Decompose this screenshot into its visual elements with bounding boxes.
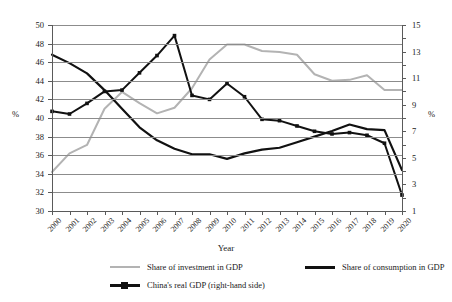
y-axis-tick-right	[402, 25, 406, 26]
x-axis-title: Year	[0, 243, 452, 253]
x-axis-tick-label: 2012	[256, 216, 274, 234]
x-axis-tick	[297, 211, 298, 215]
data-point-marker	[138, 71, 142, 75]
y-axis-tick-right	[402, 198, 406, 199]
x-axis-tick	[210, 211, 211, 215]
x-axis-tick	[52, 211, 53, 215]
y-axis-tick-right	[402, 118, 406, 119]
data-point-marker	[225, 82, 229, 86]
y-axis-tick-label-right: 13	[412, 47, 421, 57]
x-axis-tick	[140, 211, 141, 215]
y-axis-tick-right	[402, 131, 406, 132]
y-axis-tick-label-right: 3	[412, 179, 416, 189]
x-axis-tick	[70, 211, 71, 215]
x-axis-tick-label: 2014	[291, 216, 309, 234]
x-axis-tick	[87, 211, 88, 215]
x-axis-tick-label: 2016	[326, 216, 344, 234]
data-point-marker	[313, 129, 317, 133]
data-point-marker	[85, 102, 89, 106]
y-axis-tick-right	[402, 65, 406, 66]
series-line-0	[52, 45, 402, 172]
gridline	[52, 62, 402, 63]
gridline	[52, 25, 402, 26]
x-axis-tick-label: 2004	[116, 216, 134, 234]
x-axis-tick	[262, 211, 263, 215]
y-axis-tick-label-right: 5	[412, 153, 416, 163]
y-axis-tick-right	[402, 91, 406, 92]
y-axis-tick-right	[402, 184, 406, 185]
x-axis-tick-label: 2002	[81, 216, 99, 234]
data-point-marker	[190, 94, 194, 98]
chart-container: % % Year Share of investment in GDP Shar…	[0, 0, 452, 302]
gridline	[52, 99, 402, 100]
data-point-marker	[383, 141, 387, 145]
y-axis-tick-label-right: 15	[412, 20, 421, 30]
right-axis-unit-label: %	[428, 109, 435, 119]
gridline	[52, 81, 402, 82]
y-axis-tick-label-right: 11	[412, 73, 420, 83]
series-line-2	[52, 36, 402, 195]
y-axis-tick-right	[402, 145, 406, 146]
data-point-marker	[103, 90, 107, 94]
x-axis-tick	[175, 211, 176, 215]
plot-area	[52, 25, 402, 211]
x-axis-tick-label: 2017	[343, 216, 361, 234]
x-axis-tick-label: 2011	[238, 216, 255, 233]
legend-label-real-gdp: China's real GDP (right-hand side)	[147, 281, 265, 290]
data-point-marker	[243, 95, 247, 99]
gridline	[52, 155, 402, 156]
x-axis-tick-label: 2019	[378, 216, 396, 234]
x-axis-tick	[385, 211, 386, 215]
x-axis-tick	[402, 211, 403, 215]
x-axis-tick-label: 2001	[63, 216, 81, 234]
legend-item-real-gdp[interactable]: China's real GDP (right-hand side)	[110, 281, 265, 290]
x-axis-tick	[280, 211, 281, 215]
y-axis-line-left	[52, 25, 53, 211]
y-axis-tick-label-left: 32	[4, 187, 44, 197]
x-axis-tick	[192, 211, 193, 215]
y-axis-line-right	[402, 25, 403, 211]
x-axis-tick-label: 2015	[308, 216, 326, 234]
y-axis-tick-label-left: 50	[4, 20, 44, 30]
x-axis-tick	[157, 211, 158, 215]
gridline	[52, 192, 402, 193]
legend-item-investment[interactable]: Share of investment in GDP	[110, 263, 243, 272]
x-axis-tick-label: 2007	[168, 216, 186, 234]
gridline	[52, 44, 402, 45]
y-axis-tick-label-left: 38	[4, 132, 44, 142]
y-axis-tick-label-left: 34	[4, 169, 44, 179]
y-axis-tick-label-left: 36	[4, 150, 44, 160]
x-axis-tick-label: 2013	[273, 216, 291, 234]
gridline	[52, 137, 402, 138]
x-axis-tick-label: 2003	[98, 216, 116, 234]
x-axis-tick-label: 2006	[151, 216, 169, 234]
gridline	[52, 174, 402, 175]
y-axis-tick-right	[402, 158, 406, 159]
data-point-marker	[120, 88, 124, 92]
data-point-marker	[330, 132, 334, 136]
y-axis-tick-right	[402, 78, 406, 79]
data-point-marker	[155, 54, 159, 58]
x-axis-tick	[245, 211, 246, 215]
series-line-1	[52, 55, 402, 170]
y-axis-tick-label-left: 44	[4, 76, 44, 86]
legend-label-consumption: Share of consumption in GDP	[342, 263, 444, 272]
x-axis-tick-label: 2008	[186, 216, 204, 234]
y-axis-tick-label-left: 48	[4, 39, 44, 49]
y-axis-tick-label-left: 46	[4, 57, 44, 67]
data-point-marker	[348, 131, 352, 135]
x-axis-tick	[367, 211, 368, 215]
y-axis-tick-label-left: 30	[4, 206, 44, 216]
x-axis-tick-label: 2020	[396, 216, 414, 234]
y-axis-tick-label-left: 40	[4, 113, 44, 123]
x-axis-tick-label: 2005	[133, 216, 151, 234]
x-axis-tick	[350, 211, 351, 215]
y-axis-tick-label-right: 1	[412, 206, 416, 216]
gridline	[52, 118, 402, 119]
y-axis-tick-right	[402, 171, 406, 172]
x-axis-tick	[227, 211, 228, 215]
x-axis-tick-label: 2000	[46, 216, 64, 234]
x-axis-tick-label: 2018	[361, 216, 379, 234]
legend-item-consumption[interactable]: Share of consumption in GDP	[305, 263, 444, 272]
y-axis-tick-label-right: 7	[412, 126, 416, 136]
